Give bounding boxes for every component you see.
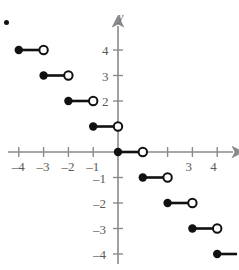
closed-endpoint-dot <box>213 250 221 258</box>
step-function-graph <box>0 0 239 270</box>
closed-endpoint-dot <box>188 224 196 232</box>
x-axis-tick-label: 4 <box>210 160 217 173</box>
y-axis-tick-label: 4 <box>102 44 109 57</box>
open-endpoint-circle <box>139 148 147 156</box>
y-axis-tick-label: –3 <box>93 223 106 236</box>
open-endpoint-circle <box>64 71 72 79</box>
closed-endpoint-dot <box>15 46 23 54</box>
step-segment <box>213 250 237 258</box>
open-endpoint-circle <box>39 46 47 54</box>
step-segment <box>39 71 72 79</box>
y-axis-label: y <box>118 11 123 23</box>
closed-endpoint-dot <box>139 173 147 181</box>
step-segment <box>188 224 221 232</box>
y-axis-tick-label: –4 <box>93 248 106 261</box>
y-axis-tick-label: 3 <box>102 70 109 83</box>
step-segment <box>139 173 172 181</box>
bullet-dot <box>4 20 9 25</box>
open-endpoint-circle <box>89 97 97 105</box>
open-endpoint-circle <box>163 173 171 181</box>
open-endpoint-circle <box>114 122 122 130</box>
step-segment <box>89 122 122 130</box>
step-segment <box>64 97 97 105</box>
y-axis-tick-label: –1 <box>93 172 106 185</box>
open-endpoint-circle <box>213 224 221 232</box>
x-axis-tick-label: 3 <box>185 160 192 173</box>
closed-endpoint-dot <box>114 148 122 156</box>
step-segment <box>163 199 196 207</box>
closed-endpoint-dot <box>64 97 72 105</box>
x-axis-tick-label: –4 <box>12 160 25 173</box>
step-segment <box>15 46 48 54</box>
open-endpoint-circle <box>188 199 196 207</box>
x-axis-tick-label: –3 <box>37 160 50 173</box>
closed-endpoint-dot <box>39 71 47 79</box>
closed-endpoint-dot <box>163 199 171 207</box>
step-segment <box>114 148 147 156</box>
x-axis-tick-label: –2 <box>61 160 74 173</box>
closed-endpoint-dot <box>89 122 97 130</box>
y-axis-tick-label: –2 <box>93 197 106 210</box>
y-axis-tick-label: 2 <box>102 95 109 108</box>
